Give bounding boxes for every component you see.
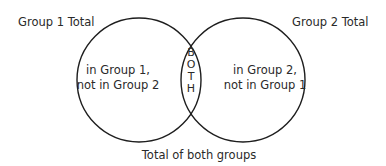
group-2-only-label-line-2: not in Group 1 bbox=[224, 78, 307, 92]
group-1-only-label-line-2: not in Group 2 bbox=[77, 78, 160, 92]
group-2-total-label: Group 2 Total bbox=[292, 15, 369, 29]
group-1-total-label: Group 1 Total bbox=[18, 15, 95, 29]
venn-diagram: Group 1 Total Group 2 Total in Group 1, … bbox=[0, 0, 386, 166]
group-2-only-label-line-1: in Group 2, bbox=[233, 63, 297, 77]
group-1-only-label-line-1: in Group 1, bbox=[86, 63, 150, 77]
union-total-label: Total of both groups bbox=[141, 148, 256, 162]
intersection-letter-h: H bbox=[187, 82, 195, 95]
